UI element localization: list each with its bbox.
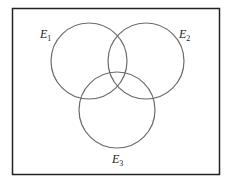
venn-diagram: E1 E2 E3 xyxy=(0,0,231,183)
